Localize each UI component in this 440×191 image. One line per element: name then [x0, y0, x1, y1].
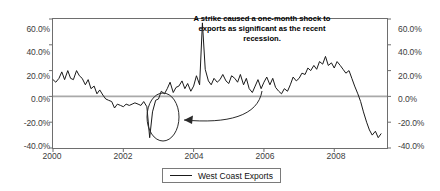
annotation-text: A strike caused a one-month shock to exp…	[186, 14, 338, 45]
chart-legend: West Coast Exports	[162, 168, 281, 183]
chart-container: 60.0% 40.0% 20.0% 0.0% -20.0% -40.0% 60.…	[0, 0, 440, 191]
annotation-arrowhead	[184, 116, 193, 125]
legend-label-west-coast-exports: West Coast Exports	[198, 171, 273, 181]
annotation-arrow-connector	[184, 91, 262, 121]
legend-line-swatch	[170, 175, 192, 176]
